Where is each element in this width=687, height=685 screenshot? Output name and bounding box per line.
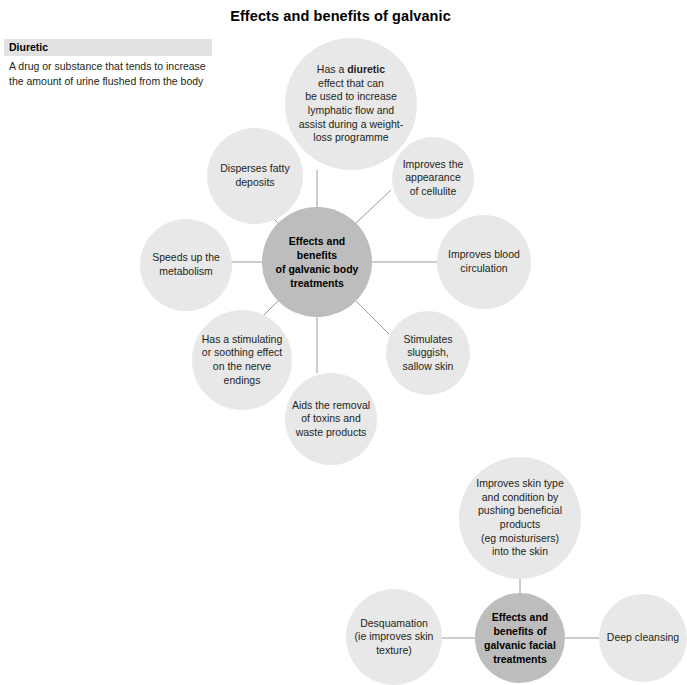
node-toxins-label: Aids the removal of toxins and waste pro… [285, 399, 377, 440]
node-circulation[interactable]: Improves blood circulation [437, 215, 531, 309]
node-circulation-label: Improves blood circulation [437, 248, 531, 275]
node-deep-cleansing-label: Deep cleansing [599, 631, 687, 645]
node-nerve-label: Has a stimulating or soothing effect on … [192, 333, 292, 387]
node-metabolism-label: Speeds up the metabolism [140, 251, 232, 278]
node-diuretic-label: Has a diuretic effect that can be used t… [285, 63, 417, 145]
node-skin-type-label: Improves skin type and condition by push… [459, 477, 581, 559]
node-sallow-skin-label: Stimulates sluggish, sallow skin [386, 333, 470, 374]
node-skin-type[interactable]: Improves skin type and condition by push… [459, 457, 581, 579]
node-desquamation-label: Desquamation (ie improves skin texture) [346, 617, 442, 658]
node-toxins[interactable]: Aids the removal of toxins and waste pro… [285, 373, 377, 465]
node-body-hub[interactable]: Effects and benefits of galvanic body tr… [262, 207, 372, 317]
node-body-hub-label: Effects and benefits of galvanic body tr… [262, 234, 372, 290]
spoke-to-sallow-skin [356, 301, 389, 334]
node-cellulite[interactable]: Improves the appearance of cellulite [392, 137, 474, 219]
node-sallow-skin[interactable]: Stimulates sluggish, sallow skin [386, 311, 470, 395]
node-desquamation[interactable]: Desquamation (ie improves skin texture) [346, 589, 442, 685]
page-title: Effects and benefits of galvanic [0, 8, 681, 24]
node-fatty-deposits-label: Disperses fatty deposits [207, 162, 303, 189]
node-deep-cleansing[interactable]: Deep cleansing [599, 594, 687, 682]
node-facial-hub-label: Effects and benefits of galvanic facial … [475, 610, 565, 666]
glossary-definition: A drug or substance that tends to increa… [4, 56, 212, 89]
spoke-to-cellulite [356, 190, 391, 223]
glossary-box: Diuretic A drug or substance that tends … [4, 39, 212, 89]
node-cellulite-label: Improves the appearance of cellulite [392, 158, 474, 199]
node-fatty-deposits[interactable]: Disperses fatty deposits [207, 128, 303, 224]
glossary-term: Diuretic [4, 39, 212, 56]
node-metabolism[interactable]: Speeds up the metabolism [140, 219, 232, 311]
node-diuretic[interactable]: Has a diuretic effect that can be used t… [285, 38, 417, 170]
node-nerve[interactable]: Has a stimulating or soothing effect on … [192, 310, 292, 410]
node-facial-hub[interactable]: Effects and benefits of galvanic facial … [475, 593, 565, 683]
